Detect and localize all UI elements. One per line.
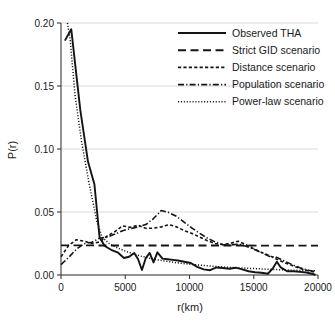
y-tick-label: 0.15 — [35, 81, 55, 92]
y-tick-labels: 0.000.050.100.150.20 — [35, 18, 55, 281]
y-tick-marks — [57, 23, 61, 275]
legend-label: Observed THA — [232, 27, 301, 39]
legend-label: Distance scenario — [232, 61, 316, 73]
figure-container: 0.000.050.100.150.20 0500010000150002000… — [0, 0, 335, 331]
y-axis-title: P(r) — [6, 141, 18, 159]
x-tick-label: 10000 — [176, 282, 204, 293]
x-tick-label: 20000 — [304, 282, 332, 293]
x-tick-label: 5000 — [114, 282, 137, 293]
y-tick-label: 0.10 — [35, 144, 55, 155]
y-tick-label: 0.05 — [35, 207, 55, 218]
legend-label: Power-law scenario — [232, 95, 324, 107]
legend-label: Population scenario — [232, 78, 324, 90]
chart-legend: Observed THAStrict GID scenarioDistance … — [178, 27, 324, 108]
chart-canvas: 0.000.050.100.150.20 0500010000150002000… — [0, 0, 335, 331]
y-tick-label: 0.00 — [35, 270, 55, 281]
legend-label: Strict GID scenario — [232, 44, 320, 56]
x-tick-label: 0 — [58, 282, 64, 293]
x-tick-marks — [61, 275, 318, 279]
x-tick-labels: 05000100001500020000 — [58, 282, 332, 293]
y-tick-label: 0.20 — [35, 18, 55, 29]
x-axis-title: r(km) — [177, 301, 203, 313]
x-tick-label: 15000 — [240, 282, 268, 293]
